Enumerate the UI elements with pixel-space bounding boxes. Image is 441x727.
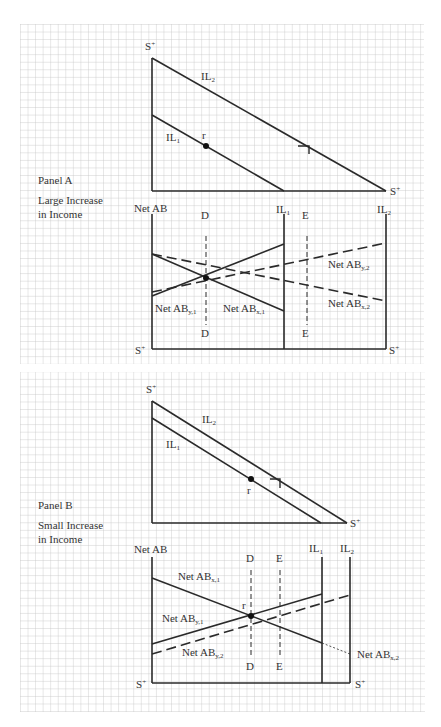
net-ab-axis-label: Net AB (134, 202, 167, 214)
panel-b: Panel B Small Increase in Income r S+ IL… (20, 372, 425, 712)
panel-a-subtitle-1: Large Increase (38, 194, 103, 206)
panel-a-title: Panel A (38, 174, 73, 186)
e-bottom-label: E (302, 327, 309, 339)
panel-b-title: Panel B (38, 499, 73, 511)
panel-b-subtitle-1: Small Increase (38, 519, 103, 531)
panel-b-subtitle-2: in Income (38, 533, 82, 545)
panel-a-subtitle-2: in Income (38, 208, 82, 220)
point-r-label: r (247, 484, 251, 496)
point-r (203, 143, 209, 149)
d-bottom-label: D (201, 327, 209, 339)
net-ab-axis-label: Net AB (134, 543, 167, 555)
d-top-label: D (246, 552, 254, 564)
d-bottom-label: D (246, 660, 254, 672)
point-r (248, 613, 254, 619)
point-r-label: r (202, 129, 206, 141)
panel-a: Panel A Large Increase in Income r S+ IL… (20, 24, 424, 364)
point-r (248, 476, 254, 482)
e-top-label: E (276, 552, 283, 564)
e-top-label: E (302, 209, 309, 221)
diagram-canvas: Panel A Large Increase in Income r S+ IL… (0, 0, 441, 727)
d-top-label: D (201, 209, 209, 221)
point-r-label-bottom: r (242, 599, 246, 611)
e-bottom-label: E (276, 660, 283, 672)
intersection-point (203, 275, 209, 281)
